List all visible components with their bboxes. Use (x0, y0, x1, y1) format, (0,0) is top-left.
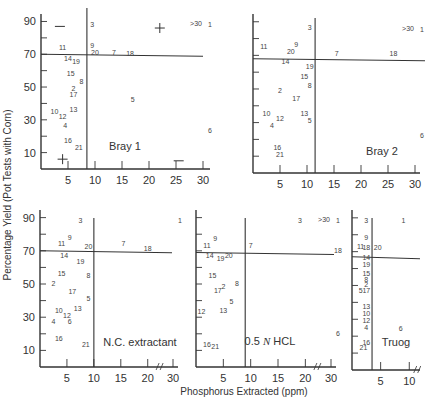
x-tick-label: 20 (299, 372, 311, 384)
data-point-label: 11 (59, 44, 66, 51)
x-tick-label: 5 (378, 375, 384, 387)
data-point-label: 7 (112, 49, 116, 56)
data-point-label: 8 (87, 272, 91, 279)
data-point-label: 4 (364, 324, 368, 331)
data-point-label: 16 (64, 137, 72, 144)
data-point-label: 7 (249, 242, 253, 249)
y-tick-label: 70 (23, 245, 35, 257)
data-point-label: 15 (58, 270, 66, 277)
nc-extractant-title: N.C. extractant (103, 336, 176, 348)
data-point-label: 18 (362, 244, 370, 251)
data-point-label: 6 (420, 132, 424, 139)
data-point-label: 5 (131, 96, 135, 103)
data-point-label: 3 (308, 24, 312, 31)
x-tick-label: 20 (142, 372, 154, 384)
gt30-note: >30 (402, 25, 414, 32)
data-point-label: 14 (206, 252, 214, 259)
x-tick-label: 30 (167, 372, 179, 384)
data-point-label: 14 (60, 252, 68, 259)
data-point-label: 6 (336, 330, 340, 337)
data-point-label: 20 (225, 252, 233, 259)
y-tick-label: 50 (24, 81, 36, 93)
plus-quadrant-icon (155, 23, 165, 33)
gt30-note: >30 (318, 216, 330, 223)
y-tick-label: 30 (24, 114, 36, 126)
data-point-label: 4 (270, 122, 274, 129)
data-point-label: 8 (80, 78, 84, 85)
data-point-label: 5 (230, 298, 234, 305)
data-point-label: 13 (70, 106, 78, 113)
data-point-label: 10 (55, 307, 63, 314)
data-point-label: 20 (91, 49, 99, 56)
x-tick-label: 10 (301, 178, 313, 190)
data-point-label: 18 (126, 50, 134, 57)
data-point-label: 4 (63, 122, 67, 129)
data-point-label: 17 (292, 95, 300, 102)
data-point-label: 5 (308, 117, 312, 124)
x-tick-label: 15 (116, 174, 128, 186)
gt30-note: >30 (190, 20, 202, 27)
x-axis-title: Phosphorus Extracted (ppm) (180, 386, 307, 397)
data-point-label: 11 (203, 242, 210, 249)
data-point-label: 10 (51, 108, 59, 115)
truog-title: Truog (382, 336, 410, 348)
data-point-label: 10 (263, 110, 271, 117)
data-point-label: 1 (336, 217, 340, 224)
data-point-label: 17 (70, 91, 78, 98)
data-point-label: 17 (362, 287, 370, 294)
x-tick-label: 10 (88, 372, 100, 384)
y-tick-label: 10 (24, 147, 36, 159)
x-tick-label: 5 (65, 174, 71, 186)
y-axis-title: Percentage Yield (Pot Tests with Corn) (2, 109, 13, 280)
data-point-label: 1 (208, 21, 212, 28)
data-point-label: 6 (208, 127, 212, 134)
x-tick-label: 15 (115, 372, 127, 384)
y-tick-label: 70 (24, 48, 36, 60)
data-point-label: 18 (390, 50, 398, 57)
data-point-label: 19 (72, 58, 80, 65)
x-tick-label: 5 (220, 372, 226, 384)
data-point-label: 9 (213, 235, 217, 242)
data-point-label: 14 (64, 55, 72, 62)
data-point-label: 17 (68, 288, 76, 295)
data-point-label: 2 (221, 283, 225, 290)
data-point-label: 7 (122, 240, 126, 247)
data-point-label: 4 (52, 318, 56, 325)
data-point-label: 6 (68, 318, 72, 325)
data-point-label: 14 (282, 58, 290, 65)
x-tick-label: 30 (409, 178, 421, 190)
x-tick-label: 5 (64, 372, 70, 384)
bray-1-title: Bray 1 (109, 140, 141, 152)
data-point-label: 9 (364, 234, 368, 241)
x-tick-label: 10 (89, 174, 101, 186)
x-tick-label: 10 (245, 372, 257, 384)
data-point-label: 19 (217, 255, 225, 262)
data-point-label: 20 (374, 244, 382, 251)
x-tick-label: 25 (382, 178, 394, 190)
data-point-label: 20 (85, 243, 93, 250)
data-point-label: 13 (219, 307, 227, 314)
data-point-label: 3 (78, 217, 82, 224)
x-tick-label: 15 (272, 372, 284, 384)
data-point-label: 15 (209, 272, 217, 279)
data-point-label: 11 (58, 240, 65, 247)
data-point-label: 1 (178, 217, 182, 224)
data-point-label: 21 (211, 343, 219, 350)
data-point-label: 3 (298, 217, 302, 224)
data-point-label: 6 (399, 325, 403, 332)
data-point-label: 9 (294, 41, 298, 48)
data-point-label: 8 (308, 82, 312, 89)
data-point-label: 12 (198, 308, 206, 315)
data-point-label: 5 (87, 295, 91, 302)
x-tick-label: 30 (197, 174, 209, 186)
x-tick-label: 20 (355, 178, 367, 190)
data-point-label: 18 (144, 245, 152, 252)
x-tick-label: 25 (170, 174, 182, 186)
data-point-label: 16 (55, 335, 63, 342)
data-point-label: 18 (334, 247, 342, 254)
y-tick-label: 90 (23, 212, 35, 224)
x-tick-label: 10 (403, 375, 415, 387)
data-point-label: 21 (82, 341, 90, 348)
phosphorus-yield-figure: 1030507090510152025301>30311920718141915… (0, 0, 433, 402)
y-tick-label: 90 (24, 15, 36, 27)
